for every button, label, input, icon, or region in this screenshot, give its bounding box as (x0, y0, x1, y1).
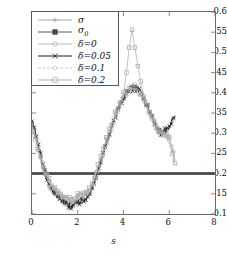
legend-item-1[interactable]: σ (32, 14, 118, 26)
marker-filled-square (117, 173, 119, 175)
x-tick-label: 8 (204, 217, 224, 227)
marker-filled-square (169, 173, 171, 175)
legend-label: δ=0 (78, 39, 97, 49)
legend-sample-plus-icon (35, 14, 75, 26)
marker-filled-square (113, 173, 115, 175)
marker-filled-square (195, 173, 197, 175)
legend-item-2[interactable]: σ0 (32, 26, 118, 38)
marker-filled-square (183, 173, 185, 175)
marker-filled-square (111, 173, 113, 175)
marker-filled-square (167, 173, 169, 175)
marker-filled-square (147, 173, 149, 175)
marker-filled-square (89, 173, 91, 175)
marker-filled-square (63, 173, 65, 175)
legend-label: δ=0.05 (78, 51, 111, 61)
marker-filled-square (105, 173, 107, 175)
marker-filled-square (175, 173, 177, 175)
marker-filled-square (131, 173, 133, 175)
marker-filled-square (73, 173, 75, 175)
marker-filled-square (83, 173, 85, 175)
marker-filled-square (143, 173, 145, 175)
legend-sample-cross-icon (35, 50, 75, 62)
marker-filled-square (213, 173, 215, 175)
marker-filled-square (99, 173, 101, 175)
marker-filled-square (119, 173, 121, 175)
marker-filled-square (101, 173, 103, 175)
marker-filled-square (139, 173, 141, 175)
marker-filled-square (135, 173, 137, 175)
marker-filled-square (163, 173, 165, 175)
marker-filled-square (125, 173, 127, 175)
x-tick-label: 2 (67, 217, 87, 227)
marker-filled-square (151, 173, 153, 175)
marker-filled-square (165, 173, 167, 175)
marker-filled-square (205, 173, 207, 175)
marker-filled-square (77, 173, 79, 175)
marker-filled-square (187, 173, 189, 175)
marker-filled-square (115, 173, 117, 175)
legend-label: σ0 (78, 25, 88, 39)
legend-sample-fsquare-icon (35, 26, 75, 38)
marker-filled-square (137, 173, 139, 175)
marker-filled-square (53, 30, 58, 35)
marker-filled-square (91, 173, 93, 175)
x-tick-label: 0 (21, 217, 41, 227)
marker-filled-square (203, 173, 205, 175)
marker-filled-square (201, 173, 203, 175)
marker-filled-square (81, 173, 83, 175)
legend-item-6[interactable]: δ=0.2 (32, 74, 118, 86)
marker-filled-square (185, 173, 187, 175)
marker-filled-square (71, 173, 73, 175)
legend-sample-square-icon (35, 74, 75, 86)
marker-filled-square (87, 173, 89, 175)
marker-filled-square (109, 173, 111, 175)
marker-filled-square (133, 173, 135, 175)
series-2 (32, 173, 215, 175)
legend-item-3[interactable]: δ=0 (32, 38, 118, 50)
marker-filled-square (67, 173, 69, 175)
x-tick-label: 6 (158, 217, 178, 227)
marker-filled-square (127, 173, 129, 175)
marker-filled-square (207, 173, 209, 175)
marker-filled-square (79, 173, 81, 175)
legend-label: σ (78, 15, 84, 25)
marker-filled-square (173, 173, 175, 175)
marker-filled-square (107, 173, 109, 175)
marker-filled-square (153, 173, 155, 175)
marker-filled-square (65, 173, 67, 175)
legend-sample-diamond-icon (35, 62, 75, 74)
marker-filled-square (209, 173, 211, 175)
marker-filled-square (157, 173, 159, 175)
marker-filled-square (179, 173, 181, 175)
marker-filled-square (159, 173, 161, 175)
legend-item-5[interactable]: δ=0.1 (32, 62, 118, 74)
marker-filled-square (171, 173, 173, 175)
marker-filled-square (149, 173, 151, 175)
marker-filled-square (69, 173, 71, 175)
marker-filled-square (191, 173, 193, 175)
legend-sample-circle-icon (35, 38, 75, 50)
x-tick-label: 4 (113, 217, 133, 227)
x-axis-label: s (0, 236, 227, 246)
legend-item-4[interactable]: δ=0.05 (32, 50, 118, 62)
marker-filled-square (189, 173, 191, 175)
marker-filled-square (121, 173, 123, 175)
marker-filled-square (193, 173, 195, 175)
marker-filled-square (197, 173, 199, 175)
legend: σσ0δ=0δ=0.05δ=0.1δ=0.2 (31, 11, 119, 86)
marker-filled-square (141, 173, 143, 175)
legend-label: δ=0.1 (78, 63, 105, 73)
marker-filled-square (103, 173, 105, 175)
marker-filled-square (161, 173, 163, 175)
marker-filled-square (129, 173, 131, 175)
marker-filled-square (123, 173, 125, 175)
legend-label: δ=0.2 (78, 75, 105, 85)
marker-filled-square (75, 173, 77, 175)
marker-filled-square (211, 173, 213, 175)
figure: 0.10.150.20.250.30.350.40.450.50.550.6 0… (0, 0, 227, 257)
marker-filled-square (199, 173, 201, 175)
marker-filled-square (145, 173, 147, 175)
marker-filled-square (155, 173, 157, 175)
marker-filled-square (181, 173, 183, 175)
marker-filled-square (85, 173, 87, 175)
